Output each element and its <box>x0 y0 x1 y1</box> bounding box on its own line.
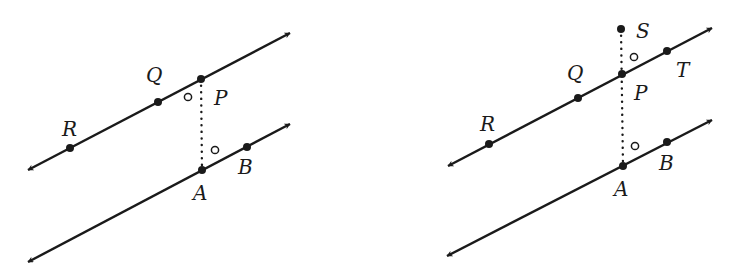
point-A <box>619 162 627 170</box>
label-Q: Q <box>146 63 162 87</box>
point-P <box>618 70 626 78</box>
label-B: B <box>237 155 253 179</box>
point-R <box>66 144 74 152</box>
figure-right: SRQPTAB <box>447 19 712 256</box>
point-Q <box>154 98 162 106</box>
label-R: R <box>61 117 77 141</box>
point-B <box>243 143 251 151</box>
angle-mark-icon <box>631 142 638 149</box>
label-B: B <box>658 151 674 175</box>
point-B <box>663 138 671 146</box>
point-S <box>617 25 625 33</box>
angle-mark-icon <box>184 93 191 100</box>
angle-mark-icon <box>211 146 218 153</box>
label-P: P <box>633 81 648 105</box>
dotted-segment-PA <box>201 79 202 170</box>
label-A: A <box>191 181 207 205</box>
point-A <box>198 166 206 174</box>
line-AB <box>447 120 712 256</box>
point-R <box>485 140 493 148</box>
angle-mark-icon <box>630 53 637 60</box>
line-AB <box>28 124 290 262</box>
label-P: P <box>213 86 228 110</box>
label-T: T <box>676 58 691 82</box>
point-P <box>197 75 205 83</box>
dotted-segment-SA <box>621 29 623 166</box>
label-R: R <box>479 112 495 136</box>
label-Q: Q <box>567 61 583 85</box>
point-Q <box>574 94 582 102</box>
figure-left: RQPAB <box>28 33 290 262</box>
label-S: S <box>636 19 650 43</box>
label-A: A <box>612 177 628 201</box>
point-T <box>663 47 671 55</box>
geometry-diagram: RQPAB SRQPTAB <box>0 0 738 271</box>
